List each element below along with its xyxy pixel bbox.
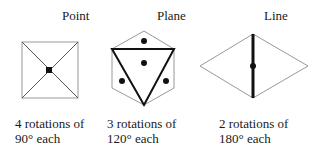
- square-figure: [22, 42, 78, 98]
- rotation-line-dot: [250, 63, 256, 69]
- panel-title-plane: Plane: [157, 8, 186, 24]
- diamond-figure: [200, 34, 308, 98]
- caption-line: 120° each: [107, 131, 159, 146]
- caption-line: 180° each: [219, 131, 271, 146]
- rotation-point-dot: [46, 67, 52, 73]
- caption-line: 90° each: [15, 131, 60, 146]
- caption-line: 4 rotations of: [15, 116, 84, 131]
- caption-plane: 3 rotations of 120° each: [107, 116, 176, 146]
- caption-point: 4 rotations of 90° each: [15, 116, 84, 146]
- panel-title-line: Line: [264, 8, 288, 24]
- caption-line: 3 rotations of: [107, 116, 176, 131]
- caption-line: 2 rotations of 180° each: [219, 116, 288, 146]
- hexagon-figure: [112, 31, 174, 105]
- caption-line: 2 rotations of: [219, 116, 288, 131]
- panel-title-point: Point: [62, 8, 89, 24]
